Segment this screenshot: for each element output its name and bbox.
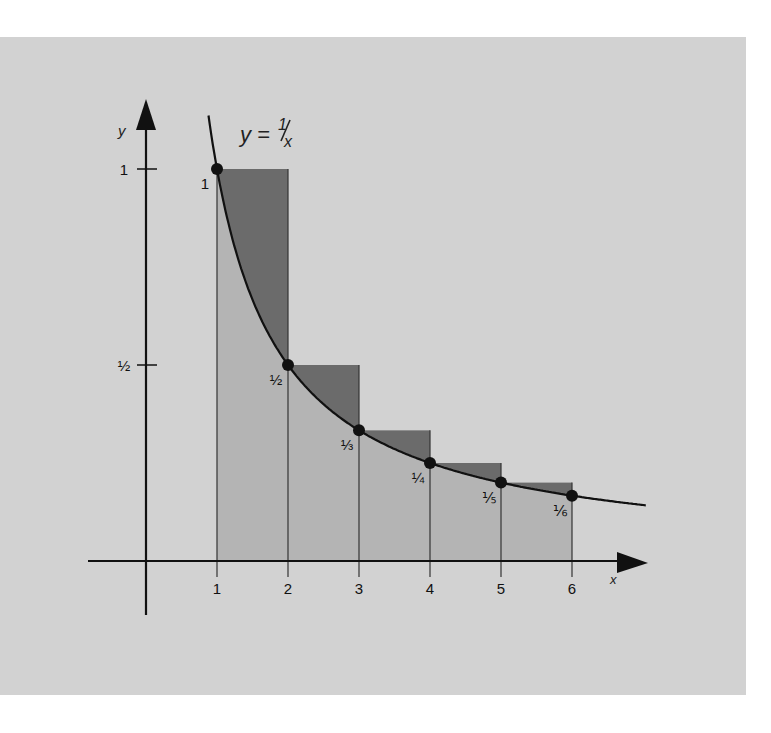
curve-point: [424, 457, 436, 469]
harmonic-series-diagram: 1½ 123456 1½⅓¼⅕⅙ y x y = 1 x: [0, 0, 771, 733]
x-ticks: 123456: [213, 580, 576, 597]
point-label: ¼: [412, 469, 425, 486]
curve-point: [211, 163, 223, 175]
x-tick-label: 1: [213, 580, 221, 597]
x-tick-label: 3: [355, 580, 363, 597]
point-label: ⅕: [482, 489, 497, 506]
point-label: ⅙: [553, 502, 568, 519]
svg-text:x: x: [283, 133, 293, 150]
x-tick-label: 4: [426, 580, 434, 597]
y-ticks: 1½: [118, 161, 157, 374]
y-axis-arrow-icon: [136, 99, 156, 130]
y-tick-label: 1: [120, 161, 128, 178]
curve-point: [495, 477, 507, 489]
x-tick-label: 6: [568, 580, 576, 597]
y-tick-label: ½: [118, 357, 131, 374]
curve-point: [353, 424, 365, 436]
point-label: ½: [270, 371, 283, 388]
x-axis-arrow-icon: [617, 552, 648, 573]
x-axis-label: x: [609, 572, 617, 587]
x-tick-label: 2: [284, 580, 292, 597]
svg-text:y: y: [238, 122, 253, 147]
curve-point: [566, 490, 578, 502]
x-tick-label: 5: [497, 580, 505, 597]
curve-point: [282, 359, 294, 371]
point-label: ⅓: [341, 436, 354, 453]
svg-text:=: =: [257, 122, 270, 147]
point-label: 1: [201, 175, 209, 192]
y-axis-label: y: [117, 122, 127, 139]
equation-label: y = 1 x: [238, 116, 293, 150]
